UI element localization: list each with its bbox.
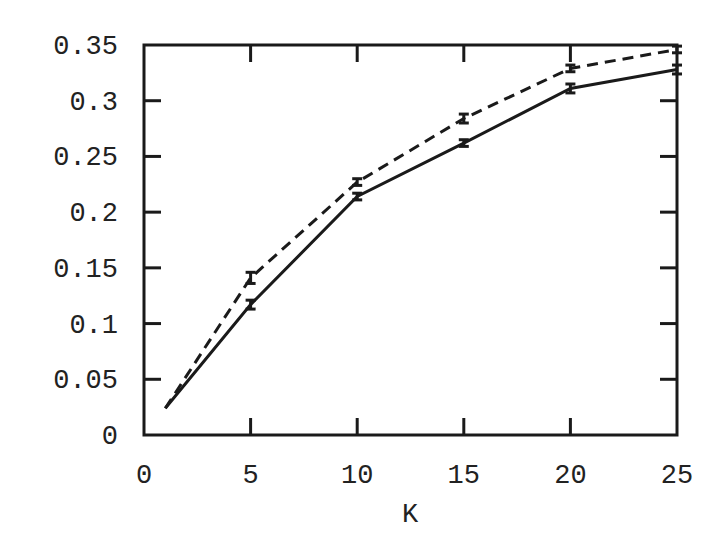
y-tick-label: 0.3	[69, 88, 118, 118]
series-layer	[165, 46, 682, 408]
error-bar	[459, 114, 469, 123]
y-tick-label: 0.15	[53, 255, 118, 285]
error-bar	[672, 46, 682, 53]
error-bar	[352, 179, 362, 186]
plot-frame	[144, 45, 677, 435]
series-line-solid	[165, 70, 677, 409]
y-tick-label: 0.2	[69, 199, 118, 229]
y-tick-label: 0	[102, 422, 118, 452]
y-tick-label: 0.25	[53, 143, 118, 173]
y-axis: 00.050.10.150.20.250.30.35	[53, 32, 677, 452]
x-tick-label: 10	[341, 461, 373, 491]
x-tick-label: 0	[136, 461, 152, 491]
error-bar	[352, 193, 362, 200]
series-line-dashed	[165, 50, 677, 409]
error-bar	[246, 300, 256, 309]
y-tick-label: 0.35	[53, 32, 118, 62]
x-tick-label: 15	[448, 461, 480, 491]
y-tick-label: 0.05	[53, 366, 118, 396]
plot-border	[144, 45, 677, 435]
x-axis-label: K	[402, 500, 419, 530]
x-tick-label: 20	[554, 461, 586, 491]
x-tick-label: 5	[242, 461, 258, 491]
y-tick-label: 0.1	[69, 311, 118, 341]
line-chart: 00.050.10.150.20.250.30.35 0510152025 K	[0, 0, 717, 550]
x-tick-label: 25	[661, 461, 693, 491]
x-axis: 0510152025	[136, 45, 693, 491]
error-bar	[459, 140, 469, 147]
